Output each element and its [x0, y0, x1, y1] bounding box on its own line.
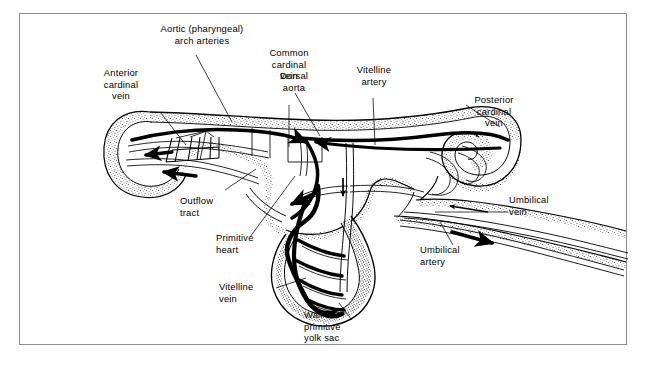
label-posterior-cardinal-vein: Posterior cardinal vein: [455, 94, 533, 129]
stalk-body-junction: [420, 176, 438, 200]
vitelline-artery-vessel: [340, 143, 354, 292]
label-common-cardinal-vein: Common cardinal vein: [252, 47, 326, 82]
embryo-body-group: [104, 55, 628, 326]
label-umbilical-artery: Umbilical artery: [420, 244, 496, 267]
label-umbilical-vein: Umbilical vein: [509, 194, 591, 217]
label-vitelline-artery: Vitelline artery: [337, 64, 411, 87]
anterior-cardinal-flow-arrow-2: [164, 172, 196, 176]
label-primitive-heart: Primitive heart: [216, 232, 288, 255]
label-aortic-pharyngeal-arch-arteries: Aortic (pharyngeal) arch arteries: [131, 23, 273, 46]
label-vitelline-vein: Vitelline vein: [219, 281, 285, 304]
embryo-circulation-figure: Aortic (pharyngeal) arch arteries Anteri…: [0, 0, 646, 369]
label-wall-of-primitive-yolk-sac: Wall of primitive yolk sac: [304, 309, 376, 344]
label-anterior-cardinal-vein: Anterior cardinal vein: [82, 67, 160, 102]
leader-aortic-arch: [196, 55, 232, 122]
label-outflow-tract: Outflow tract: [180, 195, 246, 218]
stalk-body-junction-2: [398, 192, 414, 217]
anterior-cardinal-vein-vessel: [126, 141, 269, 184]
